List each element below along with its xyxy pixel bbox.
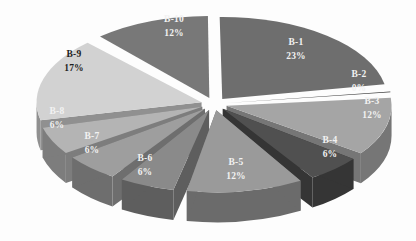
pie-label-name-b-5: B-5 (229, 157, 244, 167)
pie-label-name-b-1: B-1 (289, 37, 304, 47)
pie-chart-svg: B-1 23%B-2 0%B-3 12%B-4 6%B-5 12%B-6 6%B… (0, 0, 416, 241)
pie-label-name-b-4: B-4 (323, 135, 338, 145)
pie-chart-container: B-1 23%B-2 0%B-3 12%B-4 6%B-5 12%B-6 6%B… (0, 0, 416, 241)
pie-label-pct-b-3: 12% (362, 110, 382, 120)
pie-label-pct-b-9: 17% (64, 63, 84, 73)
pie-label-name-b-2: B-2 (352, 69, 367, 79)
pie-label-pct-b-5: 12% (226, 171, 246, 181)
pie-label-pct-b-1: 23% (286, 51, 306, 61)
pie-label-pct-b-8: 6% (50, 120, 65, 130)
pie-label-pct-b-4: 6% (323, 149, 338, 159)
pie-label-name-b-9: B-9 (67, 49, 82, 59)
pie-label-name-b-6: B-6 (138, 153, 153, 163)
pie-label-pct-b-7: 6% (85, 145, 100, 155)
pie-label-name-b-8: B-8 (50, 106, 65, 116)
pie-label-pct-b-6: 6% (138, 167, 153, 177)
pie-label-pct-b-10: 12% (164, 28, 184, 38)
pie-label-name-b-3: B-3 (365, 96, 380, 106)
pie-label-name-b-7: B-7 (85, 131, 100, 141)
pie-label-pct-b-2: 0% (352, 83, 367, 93)
pie-label-name-b-10: B-10 (164, 14, 184, 24)
